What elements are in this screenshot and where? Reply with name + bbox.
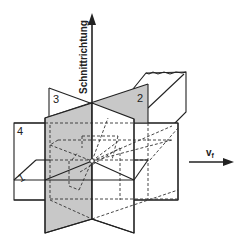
planes-diagram: Schnittrichtung vf 1 2 3 4 [0, 0, 245, 248]
diagram-canvas: Schnittrichtung vf 1 2 3 4 [0, 0, 245, 248]
plane-label-3: 3 [53, 93, 59, 105]
cutting-direction-label: Schnittrichtung [78, 20, 89, 94]
plane-label-2: 2 [137, 92, 143, 104]
vertical-plane-right [92, 103, 134, 233]
vertical-plane-left [45, 103, 92, 233]
feed-label: vf [206, 147, 215, 159]
feed-direction-arrow [189, 158, 234, 166]
intersection-point [90, 159, 94, 163]
cutting-direction-arrow [88, 13, 96, 103]
plane-label-4: 4 [17, 125, 23, 137]
